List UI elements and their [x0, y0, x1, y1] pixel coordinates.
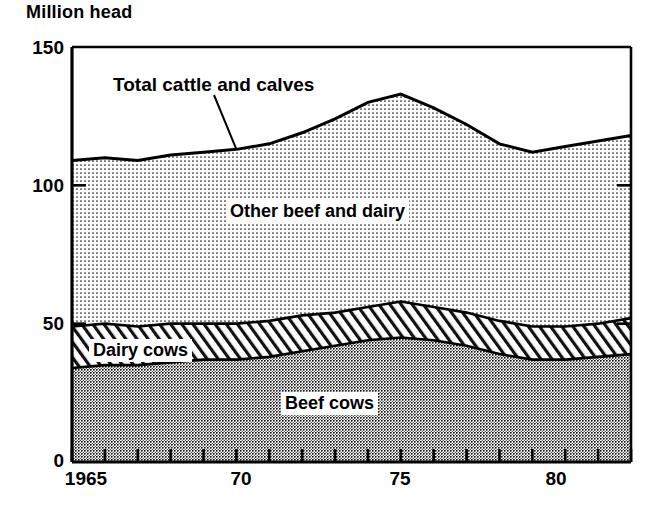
annotation-total-cattle-and-calves: Total cattle and calves [109, 73, 318, 97]
plot-area [0, 0, 654, 508]
annotation-dairy-cows: Dairy cows [89, 339, 192, 362]
annotation-beef-cows: Beef cows [281, 392, 378, 415]
cattle-inventory-chart: Million head 150 100 50 0 1965 70 75 80 [0, 0, 654, 508]
annotation-other-beef-and-dairy: Other beef and dairy [226, 200, 409, 223]
total-cattle-leader-line [214, 95, 236, 149]
